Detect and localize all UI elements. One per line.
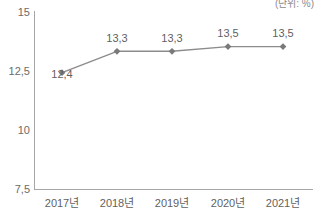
data-point-1 (114, 48, 121, 55)
data-label-3: 13,5 (217, 27, 238, 39)
y-tick-label: 7,5 (0, 183, 34, 195)
unit-annotation: (단위: %) (275, 0, 314, 10)
x-tick-label-4: 2021년 (266, 194, 300, 210)
x-tick-label-2: 2019년 (155, 194, 189, 210)
series-markers (59, 43, 287, 76)
x-tick-label-0: 2017년 (45, 194, 79, 210)
data-label-4: 13,5 (272, 27, 293, 39)
data-point-3 (225, 43, 232, 50)
y-axis-line (34, 11, 35, 190)
y-tick-label: 10 (0, 124, 34, 136)
y-tick-label: 12,5 (0, 65, 34, 77)
data-point-4 (280, 43, 287, 50)
x-tick-label-3: 2020년 (211, 194, 245, 210)
data-label-2: 13,3 (161, 32, 182, 44)
y-tick-label: 15 (0, 6, 34, 18)
x-axis-line (34, 189, 313, 190)
series-line-path (62, 47, 283, 73)
data-point-2 (169, 48, 176, 55)
data-label-1: 13,3 (106, 32, 127, 44)
data-label-0: 12,4 (51, 68, 72, 80)
line-chart: (단위: %) 15 12,5 10 7,5 2017년 2018년 2019년… (0, 0, 318, 222)
x-tick-label-1: 2018년 (100, 194, 134, 210)
